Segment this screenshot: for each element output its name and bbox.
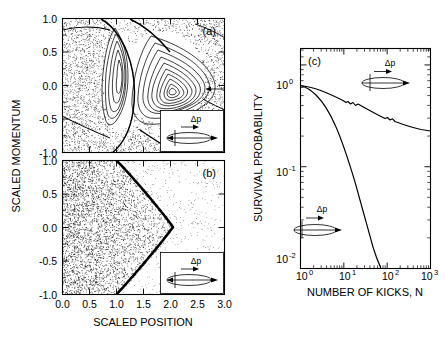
panel-c-xtick-exp-1: 1 bbox=[352, 268, 356, 277]
panel-c-ytick-exp-2: -2 bbox=[289, 251, 296, 260]
xtick-6: 3.0 bbox=[217, 298, 232, 310]
panel-c-xtick-exp-2: 2 bbox=[395, 268, 399, 277]
xtick-4: 2.0 bbox=[163, 298, 178, 310]
panel-c-inset-upper-deltap-label: Δp bbox=[385, 58, 396, 68]
panel-a-ytick-4: -0.5 bbox=[39, 113, 57, 125]
panel-b-ytick-3: 0.0 bbox=[42, 222, 57, 234]
panel-c-inset-lower-deltap-label: Δp bbox=[317, 204, 328, 214]
panel-b-ytick-1: 1.0 bbox=[42, 155, 57, 167]
panel-c-label: (c) bbox=[308, 55, 321, 67]
panel-c-xtick-exp-0: 0 bbox=[309, 268, 313, 277]
panel-c-ytick-exp-1: -1 bbox=[289, 164, 296, 173]
panel-a-label: (a) bbox=[203, 25, 216, 37]
panel-c-xtick-10-1: 10 bbox=[339, 270, 351, 282]
panel-c-xtick-10-0: 10 bbox=[296, 270, 308, 282]
panel-b-inset-deltap-label: Δp bbox=[191, 256, 202, 266]
panel-a-ytick-2: 0.5 bbox=[42, 46, 57, 58]
xtick-2: 1.0 bbox=[109, 298, 124, 310]
panel-c-ytick-10-0: 10 bbox=[276, 79, 288, 91]
panel-c-y-axis-label: SURVIVAL PROBABILITY bbox=[252, 93, 264, 222]
panel-a-ytick-1: 1.0 bbox=[42, 13, 57, 25]
shared-x-axis-label: SCALED POSITION bbox=[93, 316, 193, 328]
panel-c-x-axis-label: NUMBER OF KICKS, N bbox=[307, 286, 423, 298]
panel-c-ytick-exp-0: 0 bbox=[289, 77, 293, 86]
panel-b-label: (b) bbox=[203, 167, 216, 179]
shared-y-axis-label: SCALED MOMENTUM bbox=[10, 99, 22, 212]
figure-container: 1.0 0.5 0.0 -0.5 -1.0 (a) Δp bbox=[0, 0, 445, 340]
panel-a-inset: Δp bbox=[161, 111, 224, 152]
panel-c-ytick-10-1: 10 bbox=[276, 166, 288, 178]
panel-b-inset: Δp bbox=[161, 253, 224, 294]
xtick-1: 0.5 bbox=[82, 298, 97, 310]
panel-c-xtick-exp-3: 3 bbox=[434, 268, 438, 277]
xtick-5: 2.5 bbox=[190, 298, 205, 310]
xtick-3: 1.5 bbox=[136, 298, 151, 310]
scientific-figure: 1.0 0.5 0.0 -0.5 -1.0 (a) Δp bbox=[0, 0, 445, 340]
panel-b-ytick-2: 0.5 bbox=[42, 188, 57, 200]
panel-c-ytick-10-2: 10 bbox=[276, 253, 288, 265]
panel-c-xtick-10-3: 10 bbox=[421, 270, 433, 282]
panel-a-ytick-3: 0.0 bbox=[42, 80, 57, 92]
xtick-0: 0.0 bbox=[55, 298, 70, 310]
panel-b: 1.0 0.5 0.0 -0.5 -1.0 (b) Δp bbox=[39, 155, 225, 301]
panel-a-inset-deltap-label: Δp bbox=[191, 114, 202, 124]
panel-c-xtick-10-2: 10 bbox=[382, 270, 394, 282]
panel-a: 1.0 0.5 0.0 -0.5 -1.0 (a) Δp bbox=[39, 13, 225, 159]
panel-b-ytick-4: -0.5 bbox=[39, 255, 57, 267]
panel-c: 10 0 10 -1 10 -2 10 0 10 1 10 2 10 3 (c)… bbox=[252, 49, 438, 299]
